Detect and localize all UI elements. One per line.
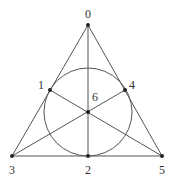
- point-label-2: 2: [85, 163, 91, 177]
- point-4: [123, 88, 127, 92]
- lines-group: [12, 25, 162, 156]
- line-1-6-5: [50, 90, 162, 156]
- point-label-4: 4: [129, 78, 135, 92]
- point-0: [86, 23, 90, 27]
- point-3: [10, 154, 14, 158]
- point-6: [86, 110, 90, 114]
- point-label-5: 5: [159, 163, 165, 177]
- fano-plane-diagram: 0123456: [0, 0, 175, 180]
- point-label-1: 1: [38, 78, 44, 92]
- point-5: [160, 154, 164, 158]
- line-3-6-4: [12, 90, 125, 156]
- labels-group: 0123456: [9, 7, 165, 177]
- point-2: [86, 154, 90, 158]
- point-label-6: 6: [92, 90, 98, 104]
- points-group: [10, 23, 164, 158]
- point-label-0: 0: [85, 7, 91, 21]
- point-1: [48, 88, 52, 92]
- point-label-3: 3: [9, 163, 15, 177]
